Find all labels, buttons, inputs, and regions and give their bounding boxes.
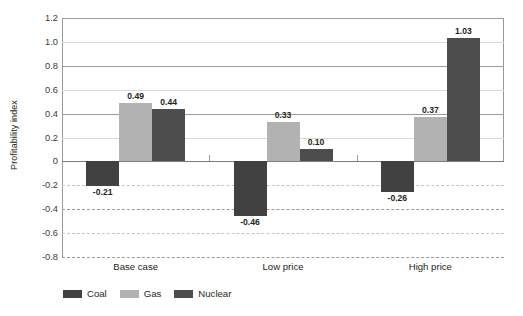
y-axis-title: Profitability index [9,60,19,210]
y-tick-label: -0.8 [26,252,58,262]
legend: CoalGasNuclear [63,288,231,299]
bar-value-label: 0.37 [422,105,439,115]
bar-coal-high-price [381,161,414,192]
group-separator-tick [503,155,504,161]
y-tick-label: -0.2 [26,180,58,190]
bar-value-label: -0.26 [388,193,408,203]
bar-nuclear-low-price [300,149,333,161]
category-label-base-case: Base case [113,261,158,272]
legend-swatch-icon [174,290,193,298]
bar-value-label: 0.49 [127,91,144,101]
gridline [62,42,504,43]
group-separator-tick [62,155,63,161]
bar-value-label: 0.44 [160,97,177,107]
group-separator-tick [357,155,358,161]
bar-value-label: 0.10 [308,137,325,147]
y-tick-label: 0.8 [26,61,58,71]
legend-item-gas[interactable]: Gas [120,288,162,299]
plot-area: -0.210.490.44-0.460.330.10-0.260.371.03 [62,18,504,257]
legend-swatch-icon [63,290,82,298]
bar-gas-low-price [267,122,300,161]
category-label-low-price: Low price [262,261,303,272]
bar-nuclear-base-case [152,109,185,162]
y-tick-label: 0 [26,156,58,166]
gridline [62,257,504,258]
legend-swatch-icon [120,290,139,298]
bar-value-label: 0.33 [275,110,292,120]
gridline [62,185,504,186]
bar-nuclear-high-price [447,38,480,161]
y-tick-label: 1.2 [26,13,58,23]
plot-top-frame-line [62,18,504,19]
y-tick-label: -0.4 [26,204,58,214]
gridline [62,161,504,162]
y-tick-label: 1.0 [26,37,58,47]
legend-item-coal[interactable]: Coal [63,288,107,299]
bar-value-label: -0.46 [240,217,260,227]
bar-coal-base-case [86,161,119,186]
gridline [62,233,504,234]
gridline [62,66,504,67]
bar-gas-high-price [414,117,447,161]
group-separator-tick [209,155,210,161]
bar-gas-base-case [119,103,152,162]
y-tick-label: -0.6 [26,228,58,238]
legend-label: Coal [87,288,107,299]
category-label-high-price: High price [409,261,452,272]
y-tick-label: 0.6 [26,85,58,95]
bar-value-label: 1.03 [455,26,472,36]
bar-value-label: -0.21 [93,187,113,197]
y-axis-tick-labels: 1.21.00.80.60.40.20-0.2-0.4-0.6-0.8 [24,0,58,316]
y-tick-label: 0.2 [26,133,58,143]
legend-item-nuclear[interactable]: Nuclear [174,288,231,299]
x-axis-category-labels: Base caseLow priceHigh price [62,261,504,277]
bar-coal-low-price [234,161,267,216]
legend-label: Gas [144,288,162,299]
y-tick-label: 0.4 [26,109,58,119]
profitability-index-bar-chart: Profitability index 1.21.00.80.60.40.20-… [0,0,523,316]
gridline [62,209,504,210]
legend-label: Nuclear [198,288,231,299]
